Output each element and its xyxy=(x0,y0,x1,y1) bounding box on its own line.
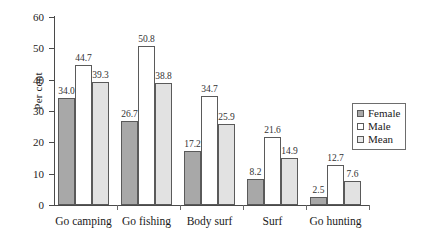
bar-go-camping-mean xyxy=(92,82,109,205)
y-tick-label: 30 xyxy=(0,105,44,117)
legend-item-female[interactable]: Female xyxy=(357,107,400,120)
bar-go-camping-male xyxy=(75,65,92,205)
x-tick xyxy=(243,205,244,210)
bar-value-label: 2.5 xyxy=(313,185,325,195)
bar-value-label: 21.6 xyxy=(264,125,281,135)
x-axis-line xyxy=(54,205,369,206)
bar-value-label: 44.7 xyxy=(75,53,92,63)
bar-chart: Per cent 0102030405060 34.044.739.326.75… xyxy=(0,0,431,246)
legend-swatch-male-icon xyxy=(357,123,364,130)
y-tick xyxy=(49,48,55,49)
x-tick xyxy=(369,205,370,210)
y-tick-label: 0 xyxy=(0,199,44,211)
x-tick xyxy=(180,205,181,210)
category-label-body-surf: Body surf xyxy=(187,215,233,227)
category-label-go-hunting: Go hunting xyxy=(309,215,361,227)
y-tick-label: 20 xyxy=(0,136,44,148)
y-tick-label: 40 xyxy=(0,74,44,86)
bar-value-label: 39.3 xyxy=(92,70,109,80)
bar-go-fishing-female xyxy=(121,121,138,205)
y-tick-label: 60 xyxy=(0,11,44,23)
bar-value-label: 14.9 xyxy=(281,146,298,156)
x-tick xyxy=(117,205,118,210)
bar-surf-female xyxy=(247,179,264,205)
bar-go-camping-female xyxy=(58,98,75,205)
bar-go-hunting-male xyxy=(327,165,344,205)
bar-value-label: 26.7 xyxy=(121,109,138,119)
y-tick xyxy=(49,17,55,18)
y-tick xyxy=(49,174,55,175)
bar-value-label: 8.2 xyxy=(250,167,262,177)
y-tick xyxy=(49,142,55,143)
y-tick xyxy=(49,80,55,81)
bar-value-label: 7.6 xyxy=(347,169,359,179)
legend-label: Mean xyxy=(368,134,393,145)
legend-swatch-female-icon xyxy=(357,110,364,117)
legend-item-mean[interactable]: Mean xyxy=(357,133,400,146)
category-label-go-fishing: Go fishing xyxy=(122,215,171,227)
y-tick xyxy=(49,111,55,112)
legend-item-male[interactable]: Male xyxy=(357,120,400,133)
legend-label: Male xyxy=(368,121,391,132)
bar-value-label: 12.7 xyxy=(327,153,344,163)
bar-body-surf-female xyxy=(184,151,201,205)
bar-value-label: 38.8 xyxy=(155,71,172,81)
legend-swatch-mean-icon xyxy=(357,136,364,143)
chart-legend: FemaleMaleMean xyxy=(352,103,406,150)
bar-body-surf-mean xyxy=(218,124,235,205)
bar-value-label: 34.0 xyxy=(58,86,75,96)
bar-value-label: 34.7 xyxy=(201,84,218,94)
category-label-go-camping: Go camping xyxy=(55,215,112,227)
bar-go-fishing-mean xyxy=(155,83,172,205)
bar-go-fishing-male xyxy=(138,46,155,205)
y-tick xyxy=(49,205,55,206)
y-tick-label: 10 xyxy=(0,168,44,180)
bar-surf-mean xyxy=(281,158,298,205)
bar-go-hunting-mean xyxy=(344,181,361,205)
bar-value-label: 17.2 xyxy=(184,139,201,149)
bar-surf-male xyxy=(264,137,281,205)
category-label-surf: Surf xyxy=(263,215,283,227)
legend-label: Female xyxy=(368,108,400,119)
bar-body-surf-male xyxy=(201,96,218,205)
bar-go-hunting-female xyxy=(310,197,327,205)
y-tick-label: 50 xyxy=(0,42,44,54)
x-tick xyxy=(306,205,307,210)
bar-value-label: 50.8 xyxy=(138,34,155,44)
bar-value-label: 25.9 xyxy=(218,112,235,122)
